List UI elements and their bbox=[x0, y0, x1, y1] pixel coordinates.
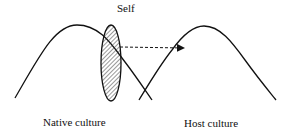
self-ellipse bbox=[101, 25, 121, 101]
native-culture-label: Native culture bbox=[43, 116, 106, 128]
self-label: Self bbox=[117, 2, 135, 14]
native-culture-curve bbox=[15, 25, 152, 100]
host-culture-curve bbox=[139, 26, 276, 100]
host-culture-label: Host culture bbox=[184, 117, 238, 129]
